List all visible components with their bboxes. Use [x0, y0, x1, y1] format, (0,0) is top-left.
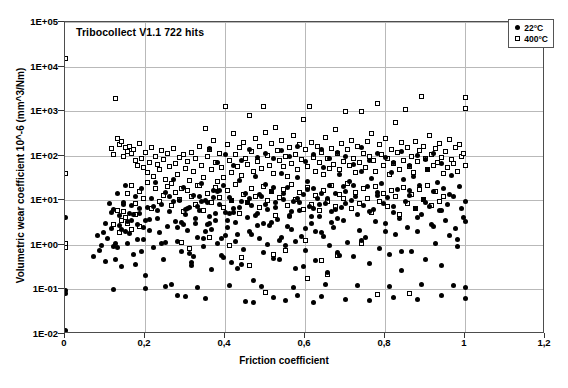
scatter-point: [433, 241, 438, 246]
scatter-point: [427, 133, 432, 138]
gridline-horizontal: [65, 67, 543, 68]
scatter-point: [145, 170, 150, 175]
scatter-point: [149, 145, 154, 150]
scatter-point: [121, 202, 126, 207]
scatter-point: [455, 244, 460, 249]
scatter-point: [287, 214, 292, 219]
scatter-point: [167, 209, 172, 214]
gridline-horizontal: [65, 245, 543, 246]
chart-legend[interactable]: 22°C400°C: [508, 19, 554, 48]
scatter-point: [441, 171, 446, 176]
scatter-point: [247, 147, 252, 152]
scatter-point: [335, 216, 340, 221]
scatter-point: [113, 257, 118, 262]
scatter-point: [327, 156, 332, 161]
scatter-point: [399, 268, 404, 273]
scatter-point: [229, 170, 234, 175]
scatter-point: [111, 152, 116, 157]
scatter-point: [399, 149, 404, 154]
scatter-point: [239, 158, 244, 163]
open-square-icon: [513, 36, 522, 41]
legend-item-400c[interactable]: 400°C: [513, 33, 548, 44]
scatter-point: [315, 196, 320, 201]
scatter-point: [303, 226, 308, 231]
scatter-point: [163, 284, 168, 289]
scatter-point: [341, 218, 346, 223]
scatter-point: [225, 225, 230, 230]
scatter-point: [339, 205, 344, 210]
scatter-point: [261, 104, 266, 109]
legend-label: 400°C: [524, 34, 548, 44]
scatter-point: [375, 193, 380, 198]
gridline-horizontal: [65, 156, 543, 157]
scatter-point: [203, 126, 208, 131]
scatter-point: [393, 120, 398, 125]
scatter-point: [411, 174, 416, 179]
scatter-point: [109, 146, 114, 151]
scatter-point: [451, 161, 456, 166]
x-tick-mark: [304, 333, 305, 338]
scatter-point: [251, 169, 256, 174]
scatter-point: [279, 171, 284, 176]
legend-item-22c[interactable]: 22°C: [513, 22, 548, 33]
scatter-point: [387, 252, 392, 257]
scatter-point: [463, 219, 468, 224]
scatter-point: [333, 207, 338, 212]
plot-area[interactable]: [64, 21, 544, 333]
scatter-point: [401, 185, 406, 190]
scatter-point: [449, 173, 454, 178]
scatter-point: [439, 263, 444, 268]
scatter-point: [281, 197, 286, 202]
x-tick-label: 0,6: [284, 337, 324, 348]
scatter-point: [261, 250, 266, 255]
scatter-point: [383, 136, 388, 141]
scatter-point: [275, 217, 280, 222]
scatter-point: [233, 239, 238, 244]
scatter-point: [97, 248, 102, 253]
scatter-point: [309, 221, 314, 226]
scatter-point: [335, 150, 340, 155]
scatter-point: [367, 209, 372, 214]
scatter-point: [373, 184, 378, 189]
scatter-point: [251, 300, 256, 305]
scatter-point: [209, 267, 214, 272]
scatter-point: [423, 200, 428, 205]
scatter-point: [207, 235, 212, 240]
scatter-point: [165, 151, 170, 156]
scatter-point: [241, 247, 246, 252]
scatter-point: [383, 155, 388, 160]
scatter-point: [64, 171, 68, 176]
scatter-point: [317, 208, 322, 213]
x-tick-label: 0,4: [204, 337, 244, 348]
scatter-point: [225, 188, 230, 193]
scatter-point: [245, 200, 250, 205]
scatter-point: [409, 249, 414, 254]
scatter-point: [419, 94, 424, 99]
scatter-point: [227, 211, 232, 216]
scatter-point: [213, 211, 218, 216]
scatter-point: [323, 135, 328, 140]
x-tick-label: 0: [44, 337, 84, 348]
scatter-point: [185, 159, 190, 164]
x-tick-mark: [464, 333, 465, 338]
scatter-point: [437, 199, 442, 204]
scatter-point: [357, 228, 362, 233]
scatter-point: [359, 109, 364, 114]
scatter-point: [213, 218, 218, 223]
scatter-point: [179, 249, 184, 254]
scatter-point: [343, 297, 348, 302]
scatter-point: [257, 205, 262, 210]
scatter-point: [191, 169, 196, 174]
scatter-point: [145, 180, 150, 185]
scatter-point: [101, 230, 106, 235]
scatter-point: [135, 237, 140, 242]
scatter-point: [375, 101, 380, 106]
scatter-point: [189, 260, 194, 265]
y-tick-label: 1E+00: [14, 238, 58, 249]
scatter-point: [419, 282, 424, 287]
x-tick-label: 1: [444, 337, 484, 348]
scatter-point: [195, 204, 200, 209]
scatter-point: [287, 154, 292, 159]
scatter-point: [343, 189, 348, 194]
scatter-point: [123, 183, 128, 188]
